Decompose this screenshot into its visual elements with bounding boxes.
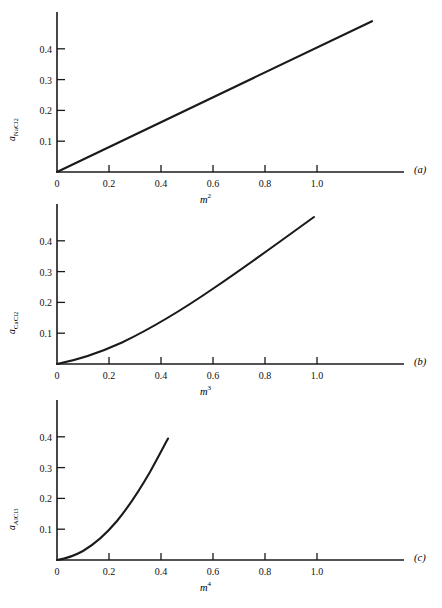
panel-a-xtick-label: 0.4: [155, 178, 168, 189]
panel-c-ytick-label: 0.3: [30, 462, 52, 473]
panel-a-data-series: [57, 21, 372, 172]
chart-panel-c: 0.1 0.2 0.3 0.4 0 0.2 0.4 0.6 0.8 1.0 m4…: [0, 390, 442, 608]
panel-b-xtick-label: 0: [55, 370, 60, 381]
panel-c-y-axis-title: aAlCl3: [7, 509, 20, 530]
panel-a-xtick-label: 0.8: [259, 178, 272, 189]
panel-a-xtick-label: 0: [55, 178, 60, 189]
chart-panel-b: 0.1 0.2 0.3 0.4 0 0.2 0.4 0.6 0.8 1.0 m3…: [0, 195, 442, 395]
panel-c-xtick-label: 0.4: [155, 566, 168, 577]
panel-b-xtick-label: 0.8: [259, 370, 272, 381]
panel-b-caption: (b): [414, 356, 426, 367]
panel-b-ytick-label: 0.1: [30, 328, 52, 339]
panel-b-ytick-label: 0.2: [30, 297, 52, 308]
panel-c-ytick-label: 0.2: [30, 493, 52, 504]
panel-c-ytick-label: 0.1: [30, 524, 52, 535]
panel-c-ytick-label: 0.4: [30, 431, 52, 442]
panel-b-canvas: [0, 195, 442, 395]
panel-c-data-series: [57, 439, 168, 561]
panel-b-xtick-label: 1.0: [311, 370, 324, 381]
panel-a-xtick-label: 1.0: [311, 178, 324, 189]
panel-a-ytick-label: 0.3: [30, 74, 52, 85]
panel-a-ytick-label: 0.2: [30, 105, 52, 116]
panel-c-xtick-label: 1.0: [311, 566, 324, 577]
panel-b-data-series: [57, 217, 314, 364]
panel-c-caption: (c): [414, 552, 426, 563]
panel-a-ytick-label: 0.4: [30, 43, 52, 54]
panel-a-ytick-label: 0.1: [30, 136, 52, 147]
panel-b-xtick-label: 0.2: [103, 370, 116, 381]
panel-b-ytick-label: 0.4: [30, 235, 52, 246]
panel-c-canvas: [0, 390, 442, 608]
panel-b-ytick-label: 0.3: [30, 266, 52, 277]
panel-c-xtick-label: 0.2: [103, 566, 116, 577]
panel-a-xtick-label: 0.6: [207, 178, 220, 189]
panel-a-canvas: [0, 0, 442, 210]
figure-activity-vs-molality: 0.1 0.2 0.3 0.4 0 0.2 0.4 0.6 0.8 1.0 m2…: [0, 0, 442, 608]
panel-c-x-axis-title: m4: [200, 580, 211, 593]
panel-c-xtick-label: 0.6: [207, 566, 220, 577]
panel-c-xtick-label: 0.8: [259, 566, 272, 577]
panel-a-xtick-label: 0.2: [103, 178, 116, 189]
chart-panel-a: 0.1 0.2 0.3 0.4 0 0.2 0.4 0.6 0.8 1.0 m2…: [0, 0, 442, 210]
panel-c-xtick-label: 0: [55, 566, 60, 577]
panel-b-xtick-label: 0.4: [155, 370, 168, 381]
panel-a-y-axis-title: aNaCl2: [7, 118, 20, 141]
panel-b-y-axis-title: aCaCl2: [7, 312, 20, 334]
panel-a-caption: (a): [414, 164, 426, 175]
panel-b-xtick-label: 0.6: [207, 370, 220, 381]
